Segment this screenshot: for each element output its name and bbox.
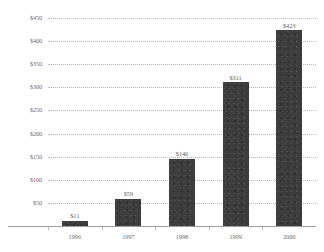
y-axis-tick-label: $50 <box>0 199 42 206</box>
x-axis-line <box>8 226 316 227</box>
bar[interactable] <box>276 30 302 226</box>
bar[interactable] <box>223 82 249 226</box>
plot-area: $11$59$146$311$423 <box>48 18 316 226</box>
bar-value-label: $59 <box>124 190 133 197</box>
bar-value-label: $146 <box>176 150 188 157</box>
x-axis-tick <box>209 226 210 230</box>
y-axis-tick-label: $100 <box>0 176 42 183</box>
y-axis-tick-label: $250 <box>0 106 42 113</box>
bar[interactable] <box>115 199 141 226</box>
bar-slot: $59 <box>102 18 156 226</box>
bar-slot: $311 <box>209 18 263 226</box>
bar-slot: $146 <box>155 18 209 226</box>
bar-value-label: $423 <box>283 22 295 29</box>
bar-slot: $423 <box>262 18 316 226</box>
y-axis-tick-label: $200 <box>0 130 42 137</box>
x-axis-tick-label: 1998 <box>155 233 209 240</box>
x-axis-tick <box>262 226 263 230</box>
bar-chart: $50$100$150$200$250$300$350$400$450 $11$… <box>0 0 324 252</box>
y-axis-tick-label: $150 <box>0 153 42 160</box>
x-axis-tick-label: 1997 <box>102 233 156 240</box>
y-axis-tick-label: $350 <box>0 60 42 67</box>
x-axis-tick <box>48 226 49 230</box>
bar-slot: $11 <box>48 18 102 226</box>
x-axis-tick-label: 1996 <box>48 233 102 240</box>
bar-value-label: $11 <box>70 212 79 219</box>
x-axis-tick <box>102 226 103 230</box>
y-axis-tick-label: $300 <box>0 83 42 90</box>
x-axis-tick-label: 1999 <box>209 233 263 240</box>
y-axis-tick-label: $400 <box>0 37 42 44</box>
x-axis-tick-label: 2000 <box>262 233 316 240</box>
bar[interactable] <box>169 159 195 226</box>
bar-value-label: $311 <box>230 74 242 81</box>
y-axis-tick-label: $450 <box>0 14 42 21</box>
x-axis-tick <box>155 226 156 230</box>
